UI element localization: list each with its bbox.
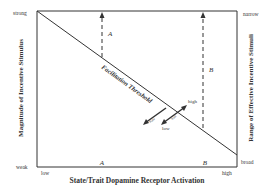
shift-low-label: low [162,126,170,131]
left-axis-bottom-label: weak [16,164,28,170]
left-axis-title: Magnitude of Incentive Stimulus [17,39,25,137]
right-axis-title: Range of Effective Incentive Stimuli [247,34,255,142]
x-axis-title: State/Trait Dopamine Receptor Activation [70,176,206,185]
x-marker-b: B [203,159,208,167]
left-axis-top-label: strong [13,10,27,16]
right-axis-bottom-label: broad [241,159,254,165]
threshold-label: Facilitation Threshold [100,63,154,105]
shift-high-label: high [188,99,197,104]
arrow-b-label: B [209,66,214,74]
x-axis-high-label: high [222,170,232,176]
facilitation-threshold-diagram: A B A B Facilitation Threshold high low … [0,0,275,189]
arrow-a-head-icon [100,12,105,18]
facilitation-threshold-line [37,11,237,155]
arrow-a-label: A [107,30,113,38]
shift-right-arrow-label: trait [170,114,177,121]
right-axis-top-label: narrow [243,11,259,17]
arrow-b-head-icon [201,12,206,18]
x-axis-low-label: low [41,170,49,176]
shift-left-arrow-label: state [148,117,156,124]
x-marker-a: A [99,159,105,167]
